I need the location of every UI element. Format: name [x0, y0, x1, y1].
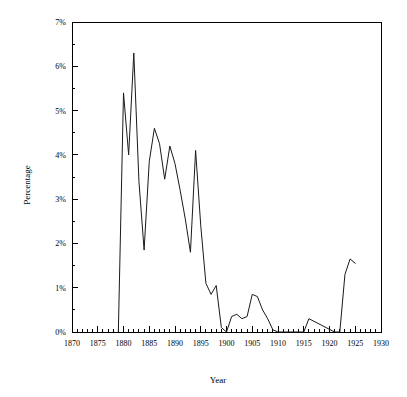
x-tick-label: 1910 [270, 339, 286, 348]
y-tick-label: 3% [55, 195, 66, 204]
axis-frame [72, 22, 381, 332]
x-tick-label: 1900 [219, 339, 235, 348]
y-tick-label: 1% [55, 284, 66, 293]
y-tick-label: 6% [55, 62, 66, 71]
x-axis-title: Year [210, 375, 227, 385]
y-axis-title: Percentage [22, 165, 32, 204]
x-tick-label: 1920 [322, 339, 338, 348]
data-series-line [118, 53, 355, 332]
x-tick-label: 1925 [347, 339, 363, 348]
line-chart-plot: 1870187518801885189018951900190519101915… [0, 0, 407, 397]
chart-figure: 1870187518801885189018951900190519101915… [0, 0, 407, 397]
y-tick-label: 5% [55, 107, 66, 116]
x-tick-label: 1885 [141, 339, 157, 348]
x-tick-label: 1915 [296, 339, 312, 348]
y-tick-label: 2% [55, 239, 66, 248]
y-tick-label: 4% [55, 151, 66, 160]
x-tick-label: 1905 [244, 339, 260, 348]
y-tick-label: 7% [55, 18, 66, 27]
x-tick-label: 1890 [167, 339, 183, 348]
x-tick-label: 1930 [373, 339, 389, 348]
x-tick-label: 1870 [64, 339, 80, 348]
x-tick-label: 1880 [116, 339, 132, 348]
x-axis-tick-labels: 1870187518801885189018951900190519101915… [64, 339, 389, 348]
y-axis-tick-labels: 0%1%2%3%4%5%6%7% [55, 18, 66, 337]
x-tick-label: 1895 [193, 339, 209, 348]
x-tick-label: 1875 [90, 339, 106, 348]
y-tick-label: 0% [55, 328, 66, 337]
